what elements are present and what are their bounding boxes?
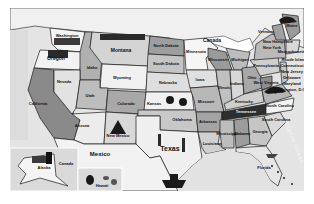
label-minnesota: Minnesota <box>186 50 206 54</box>
label-delaware: Delaware <box>283 76 301 80</box>
label-canada: Canada <box>203 38 221 43</box>
label-arizona: Arizona <box>75 124 90 128</box>
pacific-ocean <box>10 30 28 140</box>
label-kansas: Kansas <box>147 102 161 106</box>
label-massachusetts: Massachusetts <box>278 50 304 54</box>
label-florida: Florida <box>257 166 270 170</box>
sunflower-icon <box>166 96 174 104</box>
label-wisconsin: Wisconsin <box>208 58 228 62</box>
label-vermont: Vermont <box>258 30 274 34</box>
label-montana: Montana <box>111 48 132 53</box>
label-alabama: Alabama <box>234 132 251 136</box>
label-nevada: Nevada <box>57 80 71 84</box>
label-iowa: Iowa <box>196 78 205 82</box>
label-illinois: Illinois <box>218 86 231 90</box>
label-washington-dc: Washington, D.C. <box>274 88 304 92</box>
label-maine: Maine <box>286 24 297 28</box>
label-alaska: Alaska <box>38 166 51 170</box>
label-michigan: Michigan <box>231 58 248 62</box>
label-north-dakota: North Dakota <box>153 44 178 48</box>
alaska-illustration <box>32 156 46 163</box>
label-washington: Washington <box>56 34 79 38</box>
label-new-jersey: New Jersey <box>281 70 303 74</box>
label-kentucky: Kentucky <box>235 100 253 104</box>
label-oklahoma: Oklahoma <box>172 118 191 122</box>
bahamas-island-2 <box>277 171 279 173</box>
label-canada-small: Canada <box>59 162 73 166</box>
totem-icon <box>46 152 52 164</box>
sunflower-icon-2 <box>179 98 187 106</box>
label-utah: Utah <box>86 94 95 98</box>
bahamas-island <box>271 165 273 167</box>
label-pennsylvania: Pennsylvania <box>253 64 279 68</box>
label-north-carolina: North Carolina <box>266 104 294 108</box>
label-indiana: Indiana <box>230 82 244 86</box>
label-missouri: Missouri <box>198 100 214 104</box>
label-tennessee: Tennessee <box>236 110 256 114</box>
washington-illustration <box>54 38 80 45</box>
label-arkansas: Arkansas <box>199 120 217 124</box>
label-idaho: Idaho <box>87 66 98 70</box>
label-south-dakota: South Dakota <box>153 62 179 66</box>
label-california: California <box>29 102 47 106</box>
label-west-virginia: West Virginia <box>253 81 278 85</box>
montana-illustration <box>100 34 145 40</box>
bahamas-island-3 <box>283 177 285 179</box>
ship-icon <box>162 180 186 188</box>
hawaii-island-3 <box>111 179 117 185</box>
us-map: Washington Oregon Idaho Montana Wyoming … <box>10 8 304 191</box>
label-wyoming: Wyoming <box>113 76 131 80</box>
label-mexico: Mexico <box>90 151 110 157</box>
label-texas: Texas <box>160 145 179 152</box>
sailboat-icon <box>266 154 278 158</box>
label-new-hampshire: New Hampshire <box>263 40 293 44</box>
label-rhode-island: Rhode Island <box>281 58 304 62</box>
label-georgia: Georgia <box>252 130 267 134</box>
bahamas-island-4 <box>291 183 293 185</box>
hawaii-island-2 <box>103 176 109 180</box>
label-nebraska: Nebraska <box>159 81 177 85</box>
map-canvas <box>10 8 304 191</box>
label-louisiana: Louisiana <box>203 142 222 146</box>
label-oregon: Oregon <box>47 56 65 61</box>
label-connecticut: Connecticut <box>280 64 303 68</box>
label-maryland: Maryland <box>283 82 301 86</box>
label-hawaii: Hawaii <box>96 184 109 188</box>
hawaii-island-icon <box>86 175 94 185</box>
cactus-icon-2 <box>182 138 185 152</box>
label-colorado: Colorado <box>117 102 135 106</box>
ship-cabin-icon <box>170 174 178 180</box>
label-new-mexico: New Mexico <box>107 134 130 138</box>
